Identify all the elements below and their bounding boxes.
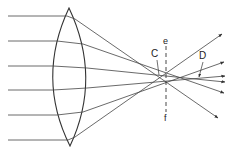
label-d: D [199,50,206,61]
outgoing-rays [75,19,225,137]
label-c: C [151,48,158,59]
lens-diagram: C D e f [0,0,234,155]
biconvex-lens [53,8,86,146]
label-f: f [164,113,167,123]
outgoing-ray-1 [75,19,218,118]
label-c-leader [157,60,159,75]
label-e: e [163,36,168,46]
refracted-rays-inside [53,16,87,140]
